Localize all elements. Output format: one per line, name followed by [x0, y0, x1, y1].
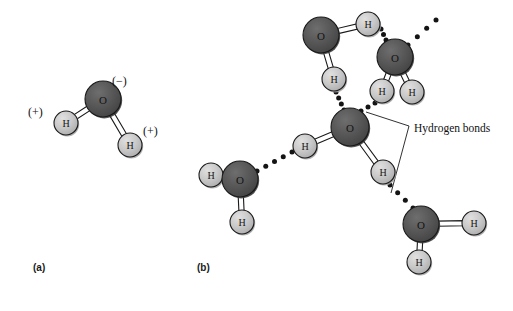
- water-hydrogen-bond-figure: HHOHHOHHOHHOHHOHHO (a) (b) (−) (+) (+) H…: [0, 0, 513, 311]
- leader-line-lower: [391, 126, 409, 193]
- water-molecule-center-hydrogen-left: H: [293, 134, 318, 159]
- hbond-center-h-to-bottomright-o: [388, 183, 416, 211]
- water-molecule-top-left-oxygen: O: [303, 17, 340, 54]
- water-molecule-center-oxygen: O: [331, 108, 370, 147]
- water-molecule-top-right-hydrogen-lower-left: H: [370, 79, 395, 104]
- hbond-topright-o-to-upper-right-dot-3: [424, 26, 429, 31]
- hbond-topright-o-to-upper-right: [406, 18, 439, 48]
- water-molecule-bottom-right-oxygen: O: [403, 206, 440, 243]
- water-molecule-polar-hydrogen-left: H: [54, 111, 79, 136]
- water-molecule-bottom-right-bond-1: [437, 221, 464, 227]
- water-molecule-bottom-right-hydrogen-lower-left: H: [407, 250, 432, 275]
- hbond-topright-o-to-upper-right-dot-4: [434, 18, 439, 23]
- panel-label-b: (b): [197, 262, 210, 273]
- water-molecule-top-right-hydrogen-lower-right: H: [400, 80, 425, 105]
- hbond-topright-h-to-center-o-dot-2: [366, 105, 371, 110]
- hbond-center-h-to-bottomright-o-dot-2: [395, 190, 400, 195]
- hbond-topleft-h-to-center-o-dot-3: [339, 102, 344, 107]
- hbond-topleft-h-to-topright-o-dot-2: [381, 32, 386, 37]
- hydrogen-right-positive-charge: (+): [143, 124, 158, 139]
- water-molecule-center-hydrogen-lower-right: H: [371, 160, 396, 185]
- water-molecule-bottom-right-hydrogen-right: H: [462, 211, 487, 236]
- water-molecule-left-hydrogen-left: H: [199, 163, 224, 188]
- molecule-scene: HHOHHOHHOHHOHHOHHO: [0, 0, 513, 311]
- hbond-center-h-to-left-o-dot-2: [281, 154, 286, 159]
- hbond-center-h-to-left-o-dot-4: [263, 164, 268, 169]
- water-molecule-top-right-oxygen: O: [377, 39, 414, 76]
- hbond-center-h-to-left-o-dot-3: [272, 159, 277, 164]
- water-molecule-left-oxygen: O: [222, 161, 259, 198]
- water-molecule-polar-hydrogen-right: H: [118, 133, 143, 158]
- hbond-topleft-h-to-center-o-dot-2: [336, 96, 341, 101]
- hbond-topright-o-to-upper-right-dot-2: [415, 34, 420, 39]
- leader-line-upper: [366, 112, 409, 126]
- oxygen-negative-charge: (−): [112, 74, 127, 89]
- water-molecule-top-left-hydrogen-lower: H: [322, 67, 347, 92]
- hbond-center-h-to-bottomright-o-dot-3: [403, 198, 408, 203]
- hbond-center-h-to-left-o: [255, 150, 295, 174]
- water-molecule-top-left-hydrogen-upper-right: H: [356, 12, 381, 37]
- panel-label-a: (a): [33, 262, 45, 273]
- water-molecule-bottom-right-bond-1-tube: [437, 221, 464, 227]
- hydrogen-bonds-label: Hydrogen bonds: [414, 122, 490, 134]
- water-molecule-left-hydrogen-lower: H: [230, 210, 255, 235]
- hydrogen-left-positive-charge: (+): [28, 105, 43, 120]
- atoms-layer: HHOHHOHHOHHOHHOHHO: [54, 12, 487, 275]
